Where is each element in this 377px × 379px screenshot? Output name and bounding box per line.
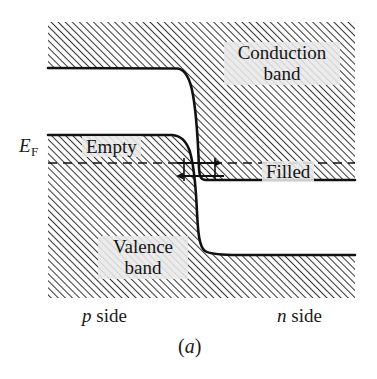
band-regions: [48, 22, 355, 298]
band-diagram: [0, 0, 377, 379]
figure-root: Conduction band Valence band Empty Fille…: [0, 0, 377, 379]
